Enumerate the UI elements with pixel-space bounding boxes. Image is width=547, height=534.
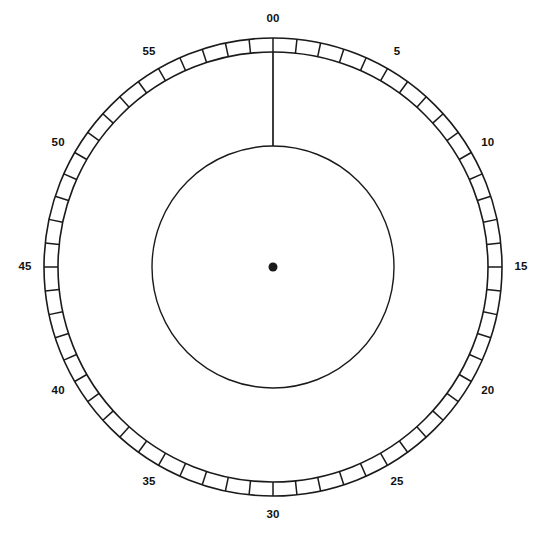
dial-tick-label-00: 00	[266, 13, 279, 25]
tick-mark	[360, 463, 366, 476]
tick-mark	[202, 471, 206, 484]
tick-mark	[138, 441, 146, 452]
tick-mark	[45, 243, 59, 244]
tick-mark	[225, 43, 228, 57]
tick-mark	[360, 58, 366, 71]
tick-mark	[318, 477, 321, 491]
tick-mark	[49, 312, 63, 315]
center-dot	[269, 263, 278, 272]
dial-gauge-canvas	[0, 0, 547, 534]
tick-mark	[180, 58, 186, 71]
dial-tick-label-5: 5	[394, 46, 401, 58]
tick-mark	[487, 243, 501, 244]
tick-mark	[469, 354, 482, 360]
tick-mark	[318, 43, 321, 57]
dial-tick-label-40: 40	[52, 385, 65, 397]
tick-mark	[295, 39, 296, 53]
tick-mark	[447, 393, 458, 401]
tick-mark	[138, 82, 146, 93]
tick-mark	[417, 97, 426, 107]
tick-mark	[469, 174, 482, 180]
tick-mark	[45, 289, 59, 290]
tick-mark	[339, 471, 343, 484]
tick-mark	[120, 427, 129, 437]
tick-mark	[88, 393, 99, 401]
dial-tick-label-15: 15	[514, 261, 527, 273]
dial-tick-label-35: 35	[142, 476, 155, 488]
tick-mark	[399, 82, 407, 93]
tick-mark	[399, 441, 407, 452]
dial-tick-label-50: 50	[52, 137, 65, 149]
tick-mark	[477, 196, 490, 200]
tick-mark	[159, 69, 166, 81]
tick-mark	[225, 477, 228, 491]
tick-mark	[487, 289, 501, 290]
tick-mark	[120, 97, 129, 107]
tick-mark	[55, 196, 68, 200]
tick-mark	[477, 333, 490, 337]
dial-gauge-figure: 00510152025303540455055	[0, 0, 547, 534]
tick-mark	[417, 427, 426, 437]
tick-mark	[459, 153, 471, 160]
tick-mark	[459, 375, 471, 382]
tick-mark	[433, 114, 443, 123]
tick-mark	[103, 114, 113, 123]
dial-tick-label-25: 25	[390, 476, 403, 488]
tick-mark	[483, 312, 497, 315]
tick-mark	[381, 69, 388, 81]
tick-mark	[49, 219, 63, 222]
tick-mark	[249, 39, 250, 53]
tick-mark	[447, 132, 458, 140]
tick-mark	[88, 132, 99, 140]
tick-mark	[180, 463, 186, 476]
tick-mark	[55, 333, 68, 337]
tick-mark	[483, 219, 497, 222]
tick-mark	[202, 49, 206, 62]
dial-tick-label-30: 30	[266, 509, 279, 521]
tick-mark	[339, 49, 343, 62]
tick-mark	[249, 481, 250, 495]
dial-tick-label-45: 45	[18, 261, 31, 273]
tick-mark	[75, 375, 87, 382]
tick-mark	[64, 174, 77, 180]
tick-mark	[381, 453, 388, 465]
tick-mark	[64, 354, 77, 360]
tick-mark	[295, 481, 296, 495]
tick-mark	[433, 411, 443, 420]
dial-tick-label-20: 20	[481, 385, 494, 397]
dial-tick-label-55: 55	[142, 46, 155, 58]
tick-mark	[75, 153, 87, 160]
dial-tick-label-10: 10	[481, 137, 494, 149]
center-hub-dot	[269, 263, 278, 272]
tick-mark	[103, 411, 113, 420]
tick-mark	[159, 453, 166, 465]
